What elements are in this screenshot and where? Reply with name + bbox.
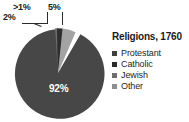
legend-swatch-catholic: [112, 62, 117, 67]
legend-label-jewish: Jewish: [121, 71, 148, 80]
legend-swatch-protestant: [112, 51, 117, 56]
legend-item-jewish[interactable]: Jewish: [112, 70, 188, 81]
chart-legend: Religions, 1760 Protestant Catholic Jewi…: [112, 32, 188, 92]
legend-item-other[interactable]: Other: [112, 81, 188, 92]
slice-label-other: 5%: [48, 3, 61, 12]
slice-label-protestant: 92%: [49, 84, 68, 94]
legend-label-other: Other: [121, 82, 143, 91]
legend-item-catholic[interactable]: Catholic: [112, 59, 188, 70]
legend-item-protestant[interactable]: Protestant: [112, 48, 188, 59]
legend-swatch-other: [112, 84, 117, 89]
pie-slices-svg: [9, 24, 107, 122]
slice-label-catholic: 2%: [3, 13, 16, 22]
legend-swatch-jewish: [112, 73, 117, 78]
slice-label-jewish: >1%: [13, 3, 31, 12]
pie-chart-figure: >1% 2% 5% 92% Religions, 1760 Protestant…: [0, 0, 189, 122]
leader-line-other: [62, 12, 63, 25]
legend-label-protestant: Protestant: [121, 49, 161, 58]
legend-label-catholic: Catholic: [121, 60, 153, 69]
legend-title: Religions, 1760: [112, 32, 188, 42]
pie-chart-graphic: [9, 24, 107, 122]
